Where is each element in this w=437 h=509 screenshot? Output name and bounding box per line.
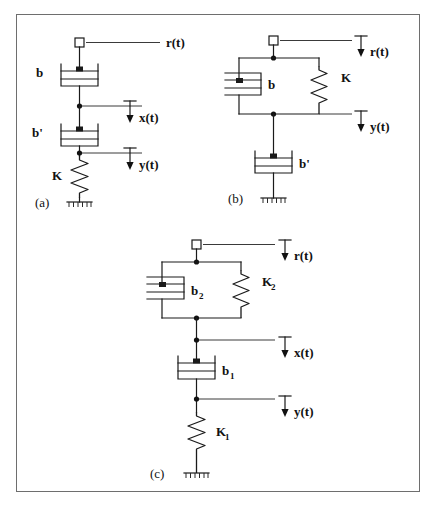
label-damper-b2-c-sub: 2 (199, 291, 204, 301)
label-spring-K1-c-sub: 1 (225, 432, 230, 442)
caption-panel-c: (c) (150, 466, 164, 481)
arrow-x-a-head (126, 115, 133, 123)
input-node-square-a (75, 38, 84, 47)
label-r-b: r(t) (370, 44, 389, 59)
arrow-r-b-head (357, 49, 364, 57)
input-node-square-b (269, 36, 278, 45)
figure-page: r(t) b x(t (0, 0, 437, 509)
ground-c (184, 473, 209, 478)
arrow-y-a (124, 148, 136, 170)
spring-K-a (71, 156, 88, 198)
panel-b: r(t) b K (225, 36, 390, 206)
arrow-r-c-head (281, 253, 288, 261)
ground-b (261, 198, 286, 203)
caption-panel-a: (a) (35, 195, 49, 210)
label-y-c: y(t) (294, 404, 314, 419)
label-damper-bp-b: b' (299, 156, 310, 171)
damper-bp-a (61, 124, 98, 146)
label-y-a: y(t) (139, 157, 159, 172)
node-y-c (194, 396, 199, 401)
damper-bp-a-piston-hub (76, 127, 83, 132)
arrow-x-a (124, 101, 136, 123)
label-spring-K-b: K (341, 70, 352, 85)
arrow-y-c (279, 396, 291, 417)
label-y-b: y(t) (370, 119, 390, 134)
damper-b1-c (178, 356, 215, 379)
label-damper-b-b: b (268, 77, 275, 92)
damper-b-b (225, 73, 261, 95)
arrow-r-b (355, 36, 367, 57)
arrow-r-c (279, 240, 291, 261)
damper-b1-c-piston-hub (193, 359, 200, 364)
label-damper-b-a: b (36, 65, 43, 80)
damper-b2-c (147, 277, 184, 299)
caption-panel-b: (b) (228, 191, 243, 206)
label-x-a: x(t) (139, 110, 159, 125)
panel-a: r(t) b x(t (32, 35, 185, 210)
label-damper-b2-c: b (191, 283, 198, 298)
damper-b-a (61, 64, 98, 86)
arrow-x-c-head (281, 350, 288, 358)
schematic-canvas: r(t) b x(t (0, 0, 437, 509)
damper-b-b-piston-hub (236, 78, 243, 83)
arrow-y-b-head (357, 124, 364, 132)
ground-a (67, 198, 92, 207)
node-x-c (194, 337, 199, 342)
arrow-y-b (355, 111, 367, 132)
input-node-square-c (192, 240, 201, 249)
damper-b2-c-cylinder (147, 277, 184, 299)
node-y-a (77, 150, 82, 155)
label-spring-K-a: K (52, 168, 63, 183)
arrow-y-c-head (281, 409, 288, 417)
arrow-y-a-head (126, 162, 133, 170)
arrow-x-c (279, 337, 291, 358)
label-r-a: r(t) (166, 35, 185, 50)
label-damper-bp-a: b' (32, 125, 43, 140)
damper-b2-c-piston-hub (159, 282, 166, 287)
label-x-c: x(t) (294, 345, 314, 360)
label-spring-K2-c-sub: 2 (271, 282, 276, 292)
spring-K2-c (233, 270, 249, 318)
spring-K1-c (188, 412, 205, 473)
damper-bp-b-piston-hub (270, 154, 277, 159)
label-damper-b1-c-sub: 1 (230, 371, 235, 381)
damper-b-b-cylinder (225, 73, 261, 95)
label-damper-b1-c: b (222, 363, 229, 378)
damper-bp-b (255, 151, 292, 173)
label-r-c: r(t) (294, 248, 313, 263)
damper-b-a-piston-hub (76, 67, 83, 72)
spring-K-b (311, 66, 327, 114)
panel-c: r(t) b 2 K 2 (147, 240, 314, 481)
